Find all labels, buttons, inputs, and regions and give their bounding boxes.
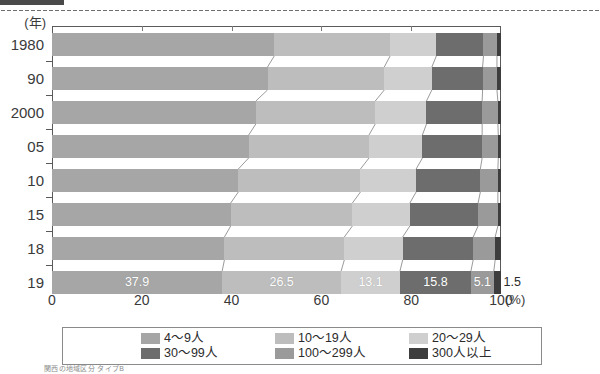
legend-label: 20～29人 bbox=[432, 332, 486, 345]
bar-segment bbox=[52, 203, 231, 226]
legend-label: 300人以上 bbox=[432, 347, 492, 360]
bar-segment bbox=[268, 67, 385, 90]
segment-value-label: 37.9 bbox=[52, 271, 222, 294]
legend-swatch bbox=[275, 333, 294, 344]
legend-swatch bbox=[141, 333, 160, 344]
bar-segment bbox=[494, 271, 501, 294]
legend-box: 4～9人10～19人20～29人30～99人100～299人300人以上 bbox=[62, 327, 542, 365]
bar-segment bbox=[274, 33, 390, 56]
bar-segment bbox=[52, 237, 224, 260]
bar-segment bbox=[52, 101, 256, 124]
bar-row bbox=[52, 203, 501, 226]
legend-items: 4～9人10～19人20～29人30～99人100～299人300人以上 bbox=[141, 331, 537, 361]
legend-label: 100～299人 bbox=[298, 347, 366, 360]
x-axis-tick-label: 40 bbox=[212, 292, 252, 308]
y-axis-tick-label: 18 bbox=[27, 240, 44, 257]
bar-row bbox=[52, 67, 501, 90]
bar-segment bbox=[384, 67, 432, 90]
bar-segment bbox=[495, 237, 501, 260]
segment-value-label: 5.1 bbox=[471, 271, 494, 294]
top-dotted-rule bbox=[0, 9, 600, 12]
legend-item: 10～19人 bbox=[275, 331, 403, 346]
segment-value-label: 1.5 bbox=[504, 271, 534, 294]
bar-segment bbox=[224, 237, 344, 260]
legend-swatch bbox=[141, 348, 160, 359]
bar-segment bbox=[482, 135, 498, 158]
legend-swatch bbox=[275, 348, 294, 359]
bar-segment bbox=[483, 67, 497, 90]
bar-segment bbox=[426, 101, 482, 124]
y-axis-tick-label: 05 bbox=[27, 138, 44, 155]
legend-item: 300人以上 bbox=[409, 346, 537, 361]
y-axis-tick-label: 1980 bbox=[11, 36, 44, 53]
bar-segment bbox=[52, 135, 249, 158]
bar-segment bbox=[482, 101, 498, 124]
bar-segment bbox=[498, 101, 501, 124]
x-axis-tick-label: 20 bbox=[122, 292, 162, 308]
bar-row: 37.926.513.115.85.11.5 bbox=[52, 271, 501, 294]
bar-segment bbox=[352, 203, 409, 226]
legend-label: 30～99人 bbox=[164, 347, 218, 360]
bar-segment bbox=[416, 169, 480, 192]
legend-swatch bbox=[409, 348, 428, 359]
bar-segment bbox=[480, 169, 498, 192]
x-axis-unit-label: (%) bbox=[505, 292, 525, 307]
bar-segment bbox=[256, 101, 375, 124]
bar-segment bbox=[403, 237, 473, 260]
y-axis-tick-label: 19 bbox=[27, 274, 44, 291]
legend-label: 10～19人 bbox=[298, 332, 352, 345]
legend-label: 4～9人 bbox=[164, 332, 204, 345]
legend-item: 100～299人 bbox=[275, 346, 403, 361]
y-axis-unit-label: (年) bbox=[0, 12, 46, 31]
bar-segment bbox=[497, 67, 501, 90]
bar-segment bbox=[498, 169, 501, 192]
x-axis-tick-label: 0 bbox=[32, 292, 72, 308]
bar-segment bbox=[498, 135, 501, 158]
chart-page: (年) 37.926.513.115.85.11.5 1980902000051… bbox=[0, 0, 600, 374]
bar-row bbox=[52, 237, 501, 260]
bar-segment bbox=[344, 237, 402, 260]
legend-item: 20～29人 bbox=[409, 331, 537, 346]
bar-segment bbox=[410, 203, 478, 226]
bar-row bbox=[52, 101, 501, 124]
bar-row bbox=[52, 33, 501, 56]
y-axis-tick-label: 2000 bbox=[11, 104, 44, 121]
bar-segment bbox=[473, 237, 495, 260]
bar-segment bbox=[422, 135, 482, 158]
legend-item: 30～99人 bbox=[141, 346, 269, 361]
stacked-bar-rows: 37.926.513.115.85.11.5 bbox=[52, 26, 501, 288]
bar-segment bbox=[238, 169, 360, 192]
segment-value-label: 26.5 bbox=[222, 271, 341, 294]
y-axis-tick-label: 10 bbox=[27, 172, 44, 189]
bar-segment bbox=[369, 135, 422, 158]
legend-swatch bbox=[409, 333, 428, 344]
legend-item: 4～9人 bbox=[141, 331, 269, 346]
bar-segment bbox=[478, 203, 498, 226]
bar-segment bbox=[52, 67, 268, 90]
bar-segment bbox=[436, 33, 483, 56]
bar-segment bbox=[249, 135, 369, 158]
bar-segment bbox=[497, 33, 501, 56]
bar-segment bbox=[498, 203, 501, 226]
bar-row bbox=[52, 135, 501, 158]
segment-value-label: 15.8 bbox=[400, 271, 471, 294]
segment-value-label: 13.1 bbox=[341, 271, 400, 294]
bar-segment bbox=[390, 33, 436, 56]
x-axis-tick-label: 60 bbox=[301, 292, 341, 308]
top-marker-bar bbox=[0, 0, 64, 5]
bar-segment bbox=[231, 203, 353, 226]
y-axis-tick-label: 15 bbox=[27, 206, 44, 223]
bar-segment bbox=[52, 169, 238, 192]
y-axis-tick-label: 90 bbox=[27, 70, 44, 87]
bar-segment bbox=[432, 67, 483, 90]
bar-segment bbox=[360, 169, 416, 192]
footnote-text: 関西の地域区分 タイプB bbox=[44, 363, 124, 373]
bar-segment bbox=[375, 101, 426, 124]
bar-row bbox=[52, 169, 501, 192]
bar-segment bbox=[52, 33, 274, 56]
bar-segment bbox=[483, 33, 496, 56]
x-axis-tick-label: 80 bbox=[391, 292, 431, 308]
